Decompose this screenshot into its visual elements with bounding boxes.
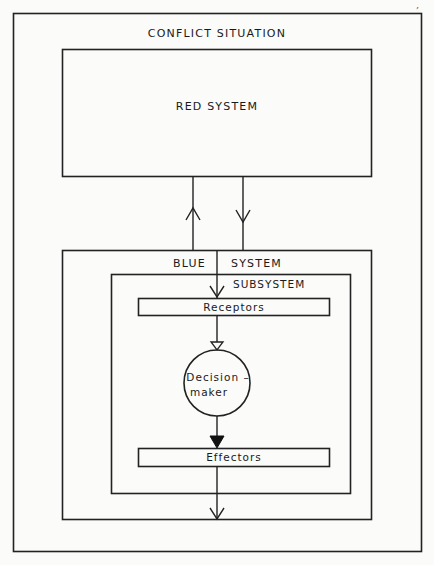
- conflict-diagram: , CONFLICT SITUATION RED SYSTEM BLUE SYS…: [0, 0, 434, 565]
- decision-maker-label-line2: maker: [190, 386, 228, 398]
- blue-system-label-right: SYSTEM: [231, 257, 282, 270]
- filled-triangle-arrow-icon: [210, 436, 224, 448]
- red-system-box: [63, 50, 372, 177]
- decision-maker-circle: [184, 350, 250, 416]
- effectors-label: Effectors: [206, 451, 262, 463]
- decision-maker-label-line1: Decision –: [186, 371, 249, 383]
- open-triangle-arrow-icon: [211, 342, 223, 350]
- conflict-situation-title: CONFLICT SITUATION: [148, 27, 286, 40]
- blue-system-label-left: BLUE: [173, 257, 206, 270]
- page-mark: ,: [416, 0, 419, 10]
- receptors-label: Receptors: [203, 301, 265, 313]
- red-system-label: RED SYSTEM: [176, 100, 258, 113]
- subsystem-label: SUBSYSTEM: [233, 278, 305, 290]
